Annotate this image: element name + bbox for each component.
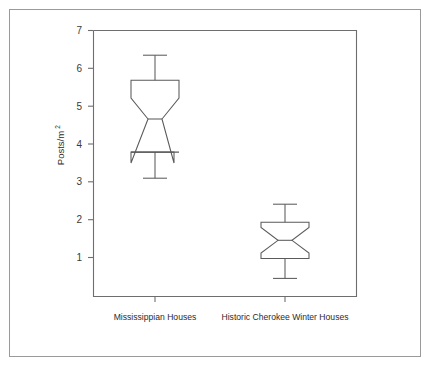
x-axis-ticks bbox=[155, 297, 285, 303]
y-tick-label-4: 4 bbox=[76, 139, 82, 150]
y-tick-label-7: 7 bbox=[76, 25, 82, 36]
category-label-mississippian: Mississippian Houses bbox=[114, 312, 197, 322]
boxplot-historic-cherokee-winter-houses[interactable] bbox=[261, 204, 309, 278]
notched-box-left bbox=[131, 80, 179, 163]
y-tick-label-2: 2 bbox=[76, 214, 82, 225]
chart-page: 7 6 5 4 3 2 1 Posts/m 2 bbox=[0, 0, 432, 368]
y-tick-label-1: 1 bbox=[76, 252, 82, 263]
y-tick-label-5: 5 bbox=[76, 101, 82, 112]
y-axis-title-text: Posts/m bbox=[55, 131, 66, 165]
x-axis-category-labels: Mississippian Houses Historic Cherokee W… bbox=[114, 312, 349, 322]
boxplot-mississippian-houses[interactable] bbox=[131, 55, 179, 178]
boxplot-figure: 7 6 5 4 3 2 1 Posts/m 2 bbox=[0, 0, 432, 368]
plot-frame bbox=[94, 31, 357, 297]
y-axis-title: Posts/m 2 bbox=[54, 125, 66, 165]
y-tick-label-6: 6 bbox=[76, 63, 82, 74]
y-axis-ticks bbox=[88, 31, 94, 258]
y-axis-title-exponent: 2 bbox=[54, 125, 61, 129]
category-label-cherokee: Historic Cherokee Winter Houses bbox=[221, 312, 348, 322]
y-tick-label-3: 3 bbox=[76, 176, 82, 187]
y-axis-tick-labels: 7 6 5 4 3 2 1 bbox=[76, 25, 82, 263]
